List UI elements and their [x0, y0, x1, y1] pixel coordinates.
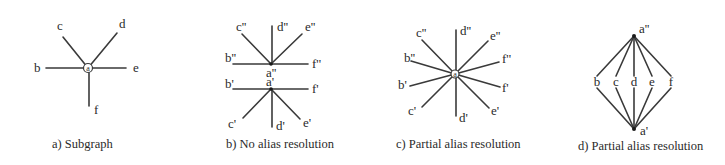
edge-c2: [242, 34, 271, 64]
label-c2: c'': [236, 19, 246, 34]
label-b1: b': [225, 76, 234, 91]
caption-b: b) No alias resolution: [226, 137, 335, 151]
label-b1: b': [398, 77, 407, 92]
label-a1: a': [266, 74, 274, 89]
label-d1: d': [276, 118, 285, 133]
edge-a-d: [88, 33, 117, 68]
panel-d-partial-alias-resolution: a'' a' b c d e f d) Partial alias resolu…: [578, 21, 704, 153]
edge-e1: [271, 89, 300, 119]
label-b: b: [594, 74, 601, 89]
node-a-merged-label: a: [453, 70, 457, 79]
edge-c-bottom: [616, 88, 634, 129]
label-b2: b'': [225, 50, 236, 65]
edge-e2: [271, 34, 302, 64]
edge-top-f: [634, 36, 671, 76]
label-c2: c'': [416, 25, 426, 40]
label-c1: c': [228, 116, 236, 131]
panel-c-partial-alias-resolution: a c'' d'' e'' b'' f'' b' f' c' d' e' c) …: [396, 23, 521, 151]
edge-top-e: [634, 36, 652, 76]
label-d2: d'': [460, 23, 471, 38]
label-f2: f'': [502, 51, 511, 66]
label-d1: d': [459, 110, 468, 125]
edge-b-bottom: [597, 88, 634, 129]
label-b2: b'': [404, 50, 415, 65]
panel-a-subgraph: a b c d e f a) Subgraph: [34, 16, 139, 151]
label-e1: e': [491, 103, 499, 118]
label-f1: f': [312, 81, 319, 96]
edge-a-c: [63, 37, 88, 68]
label-a1: a': [640, 123, 648, 138]
panel-b-no-alias-resolution: b'' c'' d'' e'' f'' a'' b' c' d' e' f' a…: [225, 19, 335, 151]
label-d2: d'': [277, 19, 288, 34]
label-f1: f': [502, 80, 509, 95]
label-a2: a'': [639, 21, 649, 36]
label-f2: f'': [312, 56, 321, 71]
label-e1: e': [303, 115, 311, 130]
caption-a: a) Subgraph: [52, 137, 113, 151]
label-d: d: [119, 16, 126, 31]
label-f: f: [94, 102, 99, 117]
edge-top-c: [616, 36, 634, 76]
label-e: e: [649, 74, 655, 89]
edge-top-b: [597, 36, 634, 76]
caption-c: c) Partial alias resolution: [396, 137, 521, 151]
label-e: e: [133, 60, 139, 75]
node-a-label: a: [86, 64, 90, 73]
label-f: f: [669, 74, 674, 89]
edge-c1: [243, 89, 271, 118]
node-a-prime: [632, 127, 636, 131]
label-d: d: [631, 74, 638, 89]
label-c1: c': [408, 103, 416, 118]
label-e2: e'': [490, 28, 500, 43]
caption-d: d) Partial alias resolution: [578, 139, 704, 153]
label-c: c: [613, 74, 619, 89]
label-b: b: [34, 60, 41, 75]
label-e2: e'': [305, 19, 315, 34]
alias-resolution-figure: a b c d e f a) Subgraph b'' c'' d'' e'' …: [0, 0, 725, 165]
node-a-double-prime: [632, 34, 636, 38]
label-c: c: [57, 18, 63, 33]
